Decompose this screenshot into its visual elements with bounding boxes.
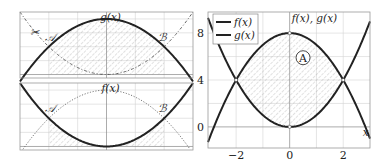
y-tick-label: 4 [197, 74, 204, 87]
panel-title: f(x) [100, 82, 119, 94]
y-tick-label: 8 [197, 27, 204, 40]
x-tick-label: −2 [228, 149, 244, 160]
figure: g(x) 𝒜 ℬ ✂ f(x) 𝒜 ℬ −202 048 f(x), g(x) … [0, 0, 387, 160]
panel-bottom-left: f(x) 𝒜 ℬ [20, 82, 193, 150]
x-tick-label: 2 [340, 149, 347, 160]
y-tick-label: 0 [197, 121, 204, 134]
intersection-point [288, 125, 291, 128]
panel-right: −202 048 f(x), g(x) x A f(x) g(x) [197, 12, 370, 160]
scissors-icon: ✂ [30, 26, 40, 39]
intersection-point [235, 78, 238, 81]
x-tick-label: 0 [286, 149, 293, 160]
x-axis-label: x [363, 126, 369, 138]
panel-title: g(x) [100, 11, 121, 23]
panel-title: f(x), g(x) [291, 12, 338, 24]
legend-label-f: f(x) [233, 16, 252, 28]
legend-label-g: g(x) [234, 29, 255, 41]
intersection-point [342, 78, 345, 81]
region-label: A [296, 51, 310, 65]
panel-top-left: g(x) 𝒜 ℬ ✂ [20, 11, 193, 81]
y-tick-labels: 048 [197, 27, 204, 134]
legend: f(x) g(x) [213, 14, 258, 44]
region-text: A [298, 52, 308, 65]
point-b-label: ℬ [158, 102, 168, 115]
x-tick-labels: −202 [228, 149, 347, 160]
point-b-label: ℬ [158, 31, 168, 44]
intersection-point [288, 32, 291, 35]
